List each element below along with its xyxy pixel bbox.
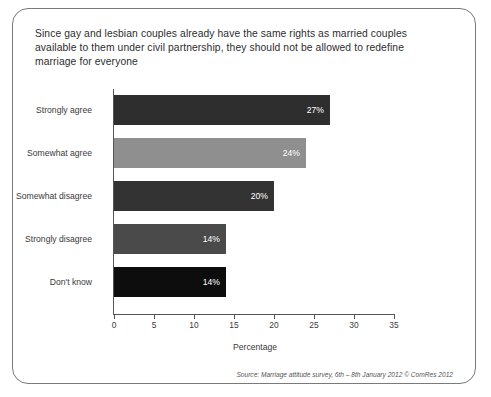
- category-label-strongly-disagree: Strongly disagree: [25, 234, 92, 244]
- x-tick-30: [354, 315, 355, 319]
- x-tick-25: [314, 315, 315, 319]
- x-axis-title: Percentage: [114, 342, 396, 352]
- bar-value-strongly-disagree: 14%: [203, 234, 220, 244]
- category-axis-labels: Strongly agree Somewhat agree Somewhat d…: [13, 89, 97, 306]
- x-tick-label-10: 10: [189, 320, 198, 330]
- x-tick-label-15: 15: [229, 320, 238, 330]
- x-tick-label-30: 30: [349, 320, 358, 330]
- x-tick-35: [394, 315, 395, 319]
- chart-card: Since gay and lesbian couples already ha…: [12, 8, 476, 384]
- source-note: Source: Marriage attitude survey, 6th – …: [236, 371, 453, 378]
- bar-strongly-agree[interactable]: 27%: [114, 95, 330, 125]
- x-tick-10: [194, 315, 195, 319]
- bar-value-strongly-agree: 27%: [307, 105, 324, 115]
- bar-strongly-disagree[interactable]: 14%: [114, 224, 226, 254]
- category-label-somewhat-agree: Somewhat agree: [27, 148, 92, 158]
- x-tick-5: [154, 315, 155, 319]
- bar-series: 27% 24% 20% 14% 14%: [114, 95, 414, 314]
- category-label-somewhat-disagree: Somewhat disagree: [16, 191, 92, 201]
- x-tick-0: [114, 315, 115, 319]
- category-label-strongly-agree: Strongly agree: [36, 105, 92, 115]
- chart-title: Since gay and lesbian couples already ha…: [35, 27, 447, 70]
- x-tick-label-35: 35: [389, 320, 398, 330]
- x-tick-label-20: 20: [269, 320, 278, 330]
- x-tick-20: [274, 315, 275, 319]
- bar-value-dont-know: 14%: [203, 277, 220, 287]
- x-tick-15: [234, 315, 235, 319]
- x-tick-label-5: 5: [152, 320, 157, 330]
- bar-dont-know[interactable]: 14%: [114, 267, 226, 297]
- y-axis-line: [113, 89, 114, 315]
- x-tick-label-0: 0: [112, 320, 117, 330]
- x-tick-label-25: 25: [309, 320, 318, 330]
- bar-somewhat-agree[interactable]: 24%: [114, 138, 306, 168]
- bar-value-somewhat-agree: 24%: [283, 148, 300, 158]
- category-label-dont-know: Don't know: [50, 277, 92, 287]
- bar-somewhat-disagree[interactable]: 20%: [114, 181, 274, 211]
- x-axis-line: [113, 314, 395, 315]
- bar-value-somewhat-disagree: 20%: [251, 191, 268, 201]
